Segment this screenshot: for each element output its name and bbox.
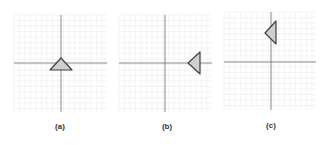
caption-c: (c) (266, 121, 276, 130)
triangle-shape (265, 21, 276, 44)
coordinate-grid-c (0, 0, 328, 145)
